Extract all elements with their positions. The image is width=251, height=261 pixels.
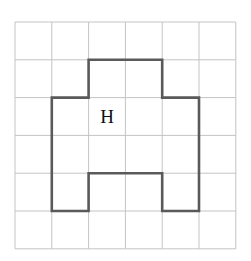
shape-label: H (100, 106, 114, 127)
grid-diagram: H (0, 0, 251, 261)
grid-lines (15, 22, 236, 249)
